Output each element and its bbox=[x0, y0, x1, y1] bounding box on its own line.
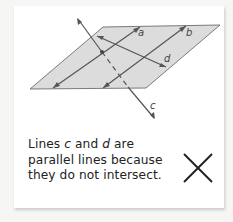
x-mark-icon bbox=[182, 152, 214, 184]
statement-text: Lines c and d are parallel lines because… bbox=[28, 137, 178, 184]
caption-line-3: they do not intersect. bbox=[28, 168, 178, 184]
label-b: b bbox=[186, 27, 192, 38]
label-d: d bbox=[164, 53, 171, 64]
label-a: a bbox=[138, 27, 144, 38]
caption-text: Lines bbox=[28, 137, 64, 151]
caption-text: and bbox=[71, 137, 102, 151]
plane-lines-figure: a b d c bbox=[0, 0, 233, 130]
exercise-card: a b d c Lines c and d are parallel lines… bbox=[14, 6, 224, 208]
caption-text: are bbox=[110, 137, 134, 151]
var-d: d bbox=[102, 137, 110, 151]
label-c: c bbox=[150, 100, 156, 111]
caption-line-2: parallel lines because bbox=[28, 153, 178, 169]
